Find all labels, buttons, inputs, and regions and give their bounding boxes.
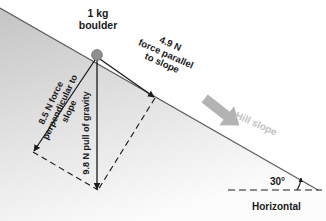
diagram-canvas: 1 kg boulder 8.5 N force perpendicular t… xyxy=(0,0,326,221)
gravity-force-label: 9.8 N pull of gravity xyxy=(81,85,91,181)
horizontal-label: Horizontal xyxy=(252,201,301,212)
boulder-icon xyxy=(92,50,103,61)
boulder-label-line2: boulder xyxy=(79,19,118,31)
boulder-label-line1: 1 kg xyxy=(87,7,108,19)
angle-label: 30° xyxy=(270,176,285,187)
boulder-label: 1 kg boulder xyxy=(62,8,134,32)
